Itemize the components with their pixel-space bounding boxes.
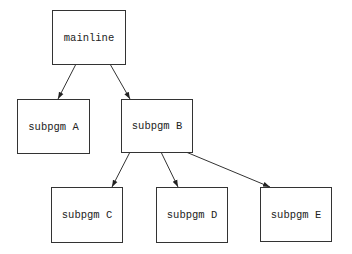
- node-label: subpgm B: [132, 120, 182, 132]
- node-label: mainline: [64, 32, 114, 44]
- edge-b-to-e: [186, 152, 270, 187]
- edge-b-to-c: [112, 152, 130, 187]
- edge-mainline-to-a: [58, 64, 76, 99]
- node-label: subpgm E: [271, 209, 321, 221]
- node-label: subpgm C: [62, 209, 112, 221]
- node-subpgm-d: subpgm D: [156, 187, 228, 243]
- edge-mainline-to-b: [110, 64, 130, 99]
- edge-b-to-d: [161, 152, 178, 187]
- node-subpgm-a: subpgm A: [17, 99, 90, 154]
- node-subpgm-e: subpgm E: [260, 187, 332, 242]
- node-mainline: mainline: [52, 10, 126, 65]
- node-label: subpgm D: [167, 209, 217, 221]
- node-label: subpgm A: [28, 121, 78, 133]
- node-subpgm-b: subpgm B: [121, 99, 193, 153]
- node-subpgm-c: subpgm C: [51, 187, 123, 243]
